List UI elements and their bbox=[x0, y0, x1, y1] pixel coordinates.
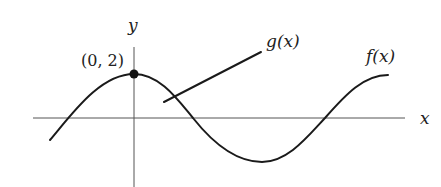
function-diagram: y x (0, 2) g(x) f(x) bbox=[0, 0, 441, 187]
x-axis-label: x bbox=[420, 108, 430, 128]
point-label: (0, 2) bbox=[81, 51, 124, 70]
g-line bbox=[164, 52, 261, 102]
point-marker bbox=[130, 70, 139, 79]
g-label: g(x) bbox=[266, 31, 300, 51]
y-axis-label: y bbox=[127, 15, 138, 35]
f-label: f(x) bbox=[364, 46, 395, 66]
